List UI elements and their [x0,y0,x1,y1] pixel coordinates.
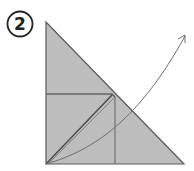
origami-diagram: 2 [0,0,194,171]
step-number: 2 [14,14,26,34]
step-badge: 2 [8,12,33,37]
